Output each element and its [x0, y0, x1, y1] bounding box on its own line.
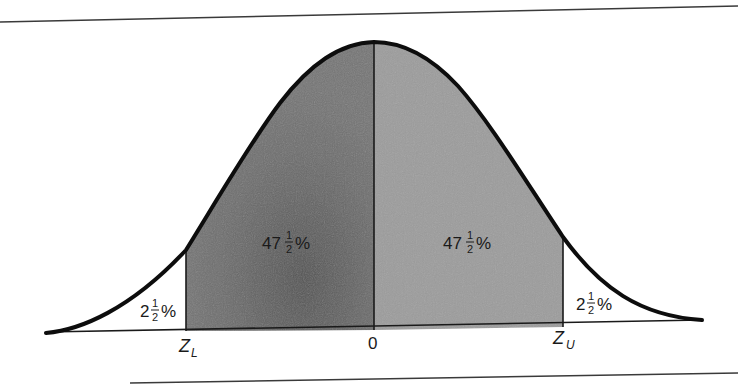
label-left-tail: 2 1 2 % — [140, 297, 176, 323]
svg-text:1: 1 — [152, 297, 158, 309]
svg-text:%: % — [476, 234, 491, 253]
top-rule — [0, 6, 738, 22]
bottom-rule — [130, 373, 738, 383]
svg-text:L: L — [191, 346, 198, 360]
svg-text:%: % — [597, 295, 612, 314]
svg-text:Z: Z — [178, 336, 191, 356]
tick-zero: 0 — [368, 334, 377, 353]
svg-text:Z: Z — [552, 328, 565, 348]
tick-z-lower: Z L — [178, 336, 198, 360]
svg-text:2: 2 — [576, 295, 585, 314]
svg-text:47: 47 — [443, 234, 462, 253]
left-center-region — [186, 42, 374, 331]
svg-text:2: 2 — [152, 311, 158, 323]
svg-text:47: 47 — [262, 234, 281, 253]
svg-text:1: 1 — [286, 229, 292, 241]
svg-text:2: 2 — [467, 243, 473, 255]
tick-z-upper: Z U — [552, 328, 575, 352]
svg-text:1: 1 — [588, 290, 594, 302]
svg-text:2: 2 — [588, 304, 594, 316]
label-right-tail: 2 1 2 % — [576, 290, 612, 316]
svg-text:%: % — [295, 234, 310, 253]
svg-text:2: 2 — [140, 302, 149, 321]
right-center-region — [374, 42, 563, 330]
normal-distribution-figure: 2 1 2 % 47 1 2 % 47 1 2 % 2 1 2 % Z L 0 … — [0, 0, 738, 384]
svg-text:0: 0 — [368, 334, 377, 353]
svg-text:2: 2 — [286, 243, 292, 255]
svg-text:%: % — [161, 302, 176, 321]
svg-text:U: U — [566, 338, 575, 352]
svg-text:1: 1 — [467, 229, 473, 241]
